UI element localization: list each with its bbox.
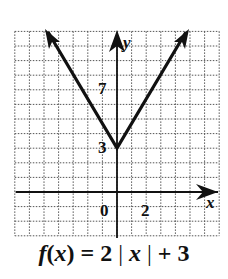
tick-label-x2: 2	[141, 201, 150, 220]
graph: y x 7 3 0 2	[0, 0, 228, 279]
tick-label-origin: 0	[100, 201, 109, 220]
tick-label-y7: 7	[98, 79, 107, 98]
y-axis-label: y	[121, 33, 131, 52]
caption-suffix: + 3	[158, 240, 190, 266]
caption-abs-var: x	[129, 240, 141, 266]
caption-abs-close: |	[147, 240, 152, 266]
function-caption: ff((x) = 2 | x | + 3	[0, 240, 228, 267]
caption-abs-open: |	[118, 240, 123, 266]
caption-var: x	[55, 240, 67, 266]
x-axis-label: x	[205, 193, 215, 212]
caption-open-paren: (	[47, 240, 55, 266]
caption-f: f	[39, 240, 47, 266]
tick-label-y3: 3	[98, 138, 107, 157]
caption-mid: ) = 2	[67, 240, 113, 266]
